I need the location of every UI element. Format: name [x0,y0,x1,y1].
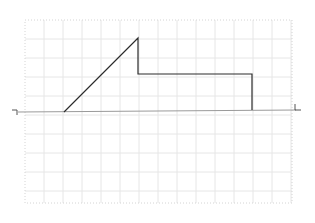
right-bracket-marker-icon [295,104,301,110]
diagram-canvas [0,0,315,223]
left-bracket-marker-icon [12,110,17,115]
baseline-axis [18,110,296,112]
